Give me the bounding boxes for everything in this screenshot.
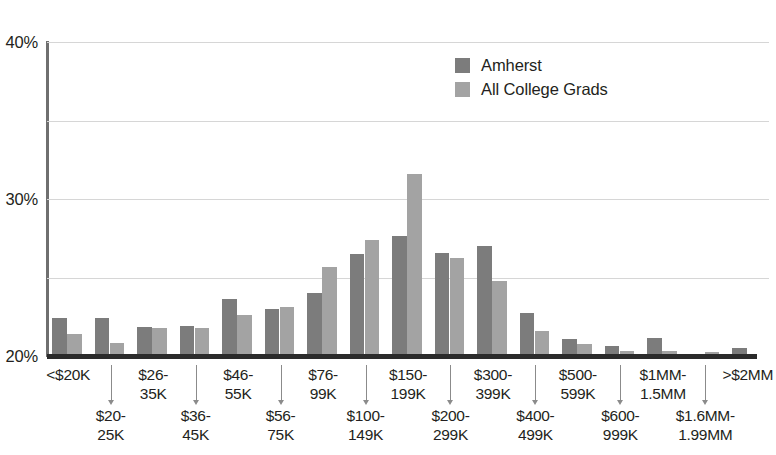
y-axis-tick-label: 40% [6,33,47,52]
bar-group [222,42,252,356]
bar-all-college-grads [280,307,295,356]
x-axis-tick-label: $26- 35K [109,365,197,403]
bar-amherst [477,246,492,356]
y-axis-tick-label: 30% [6,190,47,209]
x-axis-tick-label: $200- 299K [406,406,494,444]
bar-group [52,42,82,356]
bar-group [605,42,635,356]
bar-all-college-grads [237,315,252,356]
plot-area: 40%30%20%10%0% [47,42,769,356]
x-axis-tick-label: $1.6MM- 1.99MM [661,406,749,444]
bar-amherst [95,318,110,356]
bar-all-college-grads [407,174,422,356]
bars-layer [47,42,769,356]
bar-all-college-grads [152,328,167,356]
bar-amherst [520,313,535,356]
bar-all-college-grads [67,334,82,356]
bar-all-college-grads [535,331,550,356]
income-distribution-bar-chart: 40%30%20%10%0% AmherstAll College Grads … [0,0,776,455]
legend-swatch-icon [455,58,470,73]
bar-group [392,42,422,356]
bar-all-college-grads [322,267,337,356]
x-axis-tick-label: $46- 55K [194,365,282,403]
bar-amherst [137,327,152,356]
legend-item[interactable]: All College Grads [455,78,608,100]
x-axis-tick-label: $500- 599K [534,365,622,403]
bar-group [647,42,677,356]
bar-amherst [180,326,195,356]
chart-legend: AmherstAll College Grads [455,54,608,102]
bar-amherst [350,254,365,356]
bar-amherst [52,318,67,356]
bar-amherst [265,309,280,356]
bar-group [307,42,337,356]
bar-group [265,42,295,356]
x-axis-tick-label: $150- 199K [364,365,452,403]
bar-amherst [222,299,237,356]
bar-amherst [392,236,407,356]
legend-item-label: Amherst [481,56,542,75]
bar-group [732,42,762,356]
bar-group [180,42,210,356]
legend-item-label: All College Grads [481,80,608,99]
bar-group [690,42,720,356]
x-axis-tick-label: $1MM- 1.5MM [619,365,707,403]
x-axis-tick-label: >$2MM [704,365,776,384]
bar-all-college-grads [450,258,465,356]
legend-item[interactable]: Amherst [455,54,608,76]
x-axis-tick-label: <$20K [24,365,112,384]
x-axis-tick-label: $56- 75K [237,406,325,444]
x-axis-tick-label: $400- 499K [491,406,579,444]
bar-all-college-grads [365,240,380,356]
bar-group [350,42,380,356]
x-axis-tick-label: $20- 25K [67,406,155,444]
x-axis-tick-label: $600- 999K [576,406,664,444]
x-axis-tick-label: $76- 99K [279,365,367,403]
bar-all-college-grads [492,281,507,356]
x-axis-tick-label: $100- 149K [322,406,410,444]
legend-swatch-icon [455,82,470,97]
bar-group [95,42,125,356]
x-axis-labels: <$20K$20- 25K$26- 35K$36- 45K$46- 55K$56… [0,359,776,455]
x-axis-tick-label: $300- 399K [449,365,537,403]
bar-amherst [435,253,450,356]
bar-group [137,42,167,356]
x-axis-tick-label: $36- 45K [152,406,240,444]
bar-all-college-grads [195,328,210,356]
bar-amherst [307,293,322,356]
